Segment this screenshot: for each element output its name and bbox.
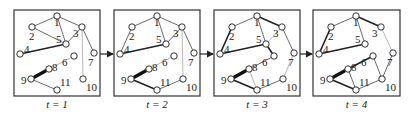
node-label-1: 1 [254,16,260,28]
node-label-1: 1 [54,16,60,28]
node-label-5: 5 [256,33,262,45]
panel-t1: 1234567891011t = 1 [14,10,100,110]
node-9 [327,76,333,82]
node-3 [179,24,185,30]
edge-6-10 [373,56,382,79]
node-label-8: 8 [52,61,58,73]
node-label-2: 2 [229,30,235,42]
node-9 [228,76,234,82]
node-6 [370,53,376,59]
node-label-7: 7 [88,56,94,68]
node-label-11: 11 [359,76,370,88]
node-5 [163,41,169,47]
node-4 [117,51,123,57]
node-label-11: 11 [260,76,271,88]
node-6 [71,53,77,59]
node-label-10: 10 [186,81,198,93]
node-3 [378,24,384,30]
node-4 [217,51,223,57]
node-label-2: 2 [328,30,334,42]
time-step-label: t = 1 [46,98,67,110]
edge-3-10 [182,27,183,79]
node-label-6: 6 [62,56,68,68]
node-4 [316,51,322,57]
node-label-5: 5 [156,33,162,45]
node-label-10: 10 [86,81,98,93]
node-label-4: 4 [323,43,329,55]
edge-1-3 [257,16,282,27]
node-label-3: 3 [372,27,378,39]
node-label-9: 9 [121,74,127,86]
node-label-10: 10 [385,81,397,93]
node-label-2: 2 [129,30,135,42]
node-4 [17,51,23,57]
node-label-6: 6 [262,56,268,68]
node-label-4: 4 [24,43,30,55]
edge-9-11 [131,79,157,90]
node-label-3: 3 [173,27,179,39]
edge-9-11 [231,79,257,90]
node-label-7: 7 [188,56,194,68]
node-5 [263,41,269,47]
node-5 [63,41,69,47]
node-label-3: 3 [273,27,279,39]
node-label-10: 10 [286,81,298,93]
edge-1-3 [157,16,182,27]
node-label-8: 8 [252,61,258,73]
panel-t3: 1234567891011t = 3 [214,10,300,110]
node-3 [279,24,285,30]
node-label-4: 4 [124,43,130,55]
node-6 [171,53,177,59]
edge-1-3 [57,16,82,27]
dynamic-graph-diagram: 1234567891011t = 11234567891011t = 21234… [0,0,408,115]
panel-t4: 1234567891011t = 4 [313,10,400,110]
node-label-6: 6 [361,56,367,68]
node-6 [271,53,277,59]
node-label-6: 6 [162,56,168,68]
node-label-9: 9 [221,74,227,86]
node-3 [79,24,85,30]
edge-3-7 [282,27,294,53]
node-label-5: 5 [355,33,361,45]
edge-9-11 [31,79,57,90]
node-label-7: 7 [288,56,294,68]
node-label-7: 7 [387,56,393,68]
node-label-8: 8 [152,61,158,73]
time-step-label: t = 3 [246,98,268,110]
node-label-9: 9 [320,74,326,86]
edge-3-7 [82,27,94,53]
edge-1-3 [356,16,381,27]
node-5 [362,41,368,47]
node-label-4: 4 [224,43,230,55]
edge-3-10 [82,27,83,79]
node-9 [28,76,34,82]
node-label-5: 5 [56,33,62,45]
node-label-2: 2 [29,30,35,42]
node-label-11: 11 [60,76,71,88]
node-9 [128,76,134,82]
node-label-9: 9 [21,74,27,86]
node-label-1: 1 [353,16,359,28]
node-label-8: 8 [351,61,357,73]
time-step-label: t = 4 [346,98,368,110]
time-step-label: t = 2 [146,98,168,110]
node-label-11: 11 [160,76,171,88]
panel-t2: 1234567891011t = 2 [114,10,200,110]
node-label-1: 1 [154,16,160,28]
node-label-3: 3 [73,27,79,39]
edge-3-7 [381,27,393,53]
edge-3-7 [182,27,194,53]
